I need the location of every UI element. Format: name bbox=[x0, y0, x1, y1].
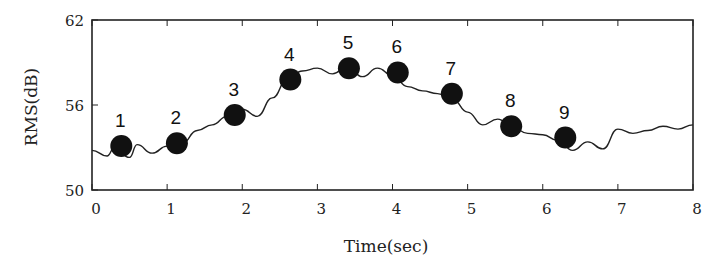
marker-1: 1 bbox=[110, 110, 132, 157]
marker-label: 8 bbox=[505, 90, 516, 111]
marker-6: 6 bbox=[387, 36, 409, 83]
x-tick-label: 5 bbox=[467, 200, 477, 218]
marker-8: 8 bbox=[500, 90, 522, 137]
marker-dot bbox=[166, 132, 188, 154]
x-tick-label: 8 bbox=[692, 200, 702, 218]
x-tick-label: 7 bbox=[617, 200, 627, 218]
marker-dot bbox=[387, 61, 409, 83]
marker-label: 7 bbox=[446, 58, 457, 79]
marker-4: 4 bbox=[279, 44, 301, 91]
y-tick-label: 56 bbox=[65, 97, 84, 115]
x-axis-label: Time(sec) bbox=[344, 236, 429, 256]
marker-dot bbox=[110, 135, 132, 157]
marker-dot bbox=[500, 115, 522, 137]
marker-dot bbox=[441, 83, 463, 105]
y-tick-label: 50 bbox=[65, 182, 84, 200]
x-tick-label: 3 bbox=[317, 200, 327, 218]
marker-label: 3 bbox=[228, 79, 239, 100]
marker-dot bbox=[338, 57, 360, 79]
marker-5: 5 bbox=[338, 32, 360, 79]
marker-9: 9 bbox=[554, 102, 576, 149]
marker-label: 6 bbox=[391, 36, 402, 57]
marker-label: 4 bbox=[284, 44, 295, 65]
marker-2: 2 bbox=[166, 107, 188, 154]
marker-3: 3 bbox=[224, 79, 246, 126]
x-tick-label: 4 bbox=[392, 200, 402, 218]
marker-dot bbox=[554, 127, 576, 149]
y-tick-label: 62 bbox=[65, 12, 84, 30]
marker-label: 2 bbox=[171, 107, 182, 128]
axis-ticks: 012345678505662 bbox=[65, 12, 702, 218]
marker-dot bbox=[224, 104, 246, 126]
x-tick-label: 0 bbox=[91, 200, 101, 218]
marker-dot bbox=[279, 69, 301, 91]
marker-label: 9 bbox=[559, 102, 570, 123]
event-markers: 123456789 bbox=[110, 32, 576, 157]
marker-label: 1 bbox=[115, 110, 126, 131]
marker-label: 5 bbox=[343, 32, 354, 53]
x-tick-label: 6 bbox=[542, 200, 552, 218]
x-tick-label: 1 bbox=[166, 200, 176, 218]
rms-chart: 012345678505662 123456789 Time(sec) RMS(… bbox=[0, 0, 720, 274]
marker-7: 7 bbox=[441, 58, 463, 105]
x-tick-label: 2 bbox=[241, 200, 251, 218]
y-axis-label: RMS(dB) bbox=[21, 68, 41, 147]
